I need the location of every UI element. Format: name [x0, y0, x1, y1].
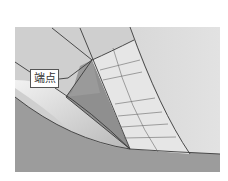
cad-surface-diagram — [0, 0, 228, 181]
endpoint-label: 端点 — [30, 69, 59, 88]
